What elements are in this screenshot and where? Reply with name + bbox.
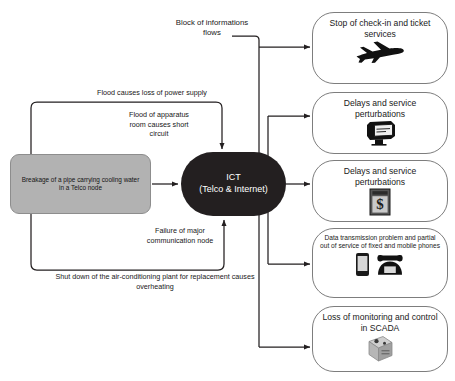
airplane-icon — [353, 40, 407, 65]
mobile-phone-glyph — [356, 253, 369, 276]
ticket-validator-icon — [363, 120, 397, 146]
source-node-breakage[interactable]: Breakage of a pipe carrying cooling wate… — [10, 154, 151, 214]
hub-label-line1: ICT — [226, 172, 241, 184]
outcome-node-delays-transit[interactable]: Delays and service perturbations — [312, 92, 448, 154]
edge-label-flood-apparatus: Flood of apparatus room causes short cir… — [126, 110, 192, 139]
landline-phone-glyph — [377, 255, 402, 275]
outcome-label-check-in: Stop of check-in and ticket services — [313, 18, 447, 39]
source-node-label: Breakage of a pipe carrying cooling wate… — [19, 176, 142, 192]
outcome-node-scada[interactable]: Loss of monitoring and control in SCADA — [312, 306, 448, 372]
outcome-label-delays-transit: Delays and service perturbations — [313, 98, 447, 119]
outcome-label-delays-banking: Delays and service perturbations — [313, 166, 447, 187]
outcome-node-check-in[interactable]: Stop of check-in and ticket services — [312, 12, 448, 84]
hub-label-line2: (Telco & Internet) — [199, 184, 268, 196]
atm-dollar-icon: $ — [368, 188, 392, 216]
hub-node-ict[interactable]: ICT (Telco & Internet) — [181, 152, 286, 216]
outcome-node-delays-banking[interactable]: Delays and service perturbations $ — [312, 160, 448, 222]
outcome-node-telecom[interactable]: Data transmission problem and partial ou… — [312, 228, 448, 298]
diagram-canvas: Breakage of a pipe carrying cooling wate… — [0, 0, 455, 381]
rtu-device-icon — [363, 334, 397, 364]
svg-text:$: $ — [376, 197, 384, 213]
outcome-label-scada: Loss of monitoring and control in SCADA — [313, 312, 447, 333]
edge-label-failure-comm: Failure of major communication node — [140, 226, 220, 245]
edge-label-shutdown-ac: Shut down of the air-conditioning plant … — [55, 272, 255, 291]
outcome-label-telecom: Data transmission problem and partial ou… — [313, 234, 447, 251]
phones-icon — [348, 252, 412, 277]
edge-label-flood-power: Flood causes loss of power supply — [62, 88, 242, 98]
edge-label-block-info: Block of informations flows — [166, 18, 258, 38]
